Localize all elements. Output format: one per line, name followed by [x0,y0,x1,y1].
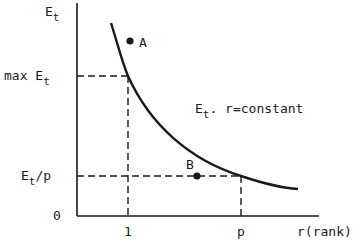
rank-1-tick-label: 1 [124,224,132,239]
point-a-label: A [139,35,147,50]
max-et-tick-label: max Et [4,68,50,88]
zero-tick-label: 0 [53,208,61,223]
rank-p-tick-label: p [237,224,245,239]
et-over-p-tick-label: Et/p [21,168,51,188]
y-axis-label: Et [45,4,59,24]
curve-equation-label: Et. r=constant [195,101,303,121]
rank-effort-diagram: A B Et max Et Et/p 0 1 p r(rank) Et. r=c… [0,0,361,244]
x-axis-label: r(rank) [297,224,352,239]
point-b-label: B [186,157,194,172]
point-b [193,172,200,179]
point-a [126,37,133,44]
